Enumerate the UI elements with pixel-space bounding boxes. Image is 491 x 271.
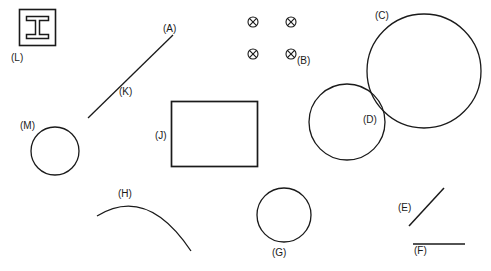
label-H: (H) (118, 189, 132, 199)
diagonal-line-long (88, 35, 173, 118)
large-circle (367, 14, 481, 128)
label-L: (L) (11, 53, 23, 63)
small-circle-left (31, 127, 79, 175)
label-F: (F) (414, 246, 427, 256)
small-circle-bottom (257, 188, 311, 242)
crossed-circle-marker (286, 49, 296, 59)
square-outline (20, 10, 56, 46)
label-B: (B) (297, 56, 310, 66)
label-D: (D) (363, 115, 377, 125)
crossed-circle-marker (248, 17, 258, 27)
crossed-circle-marker-group (248, 17, 296, 59)
open-arc (97, 206, 191, 251)
label-K: (K) (119, 87, 132, 97)
label-C: (C) (375, 11, 389, 21)
ibeam-icon (27, 17, 49, 39)
figure-vector-layer (0, 0, 491, 271)
diagonal-line-short (409, 188, 444, 226)
diagram-canvas: (A) (B) (C) (D) (E) (F) (G) (H) (J) (K) … (0, 0, 491, 271)
label-G: (G) (272, 248, 286, 258)
label-E: (E) (398, 203, 411, 213)
crossed-circle-marker (248, 49, 258, 59)
square-with-ibeam (20, 10, 56, 46)
rectangle (172, 102, 258, 167)
label-J: (J) (155, 131, 167, 141)
crossed-circle-marker (286, 17, 296, 27)
label-A: (A) (163, 24, 176, 34)
label-M: (M) (20, 121, 35, 131)
